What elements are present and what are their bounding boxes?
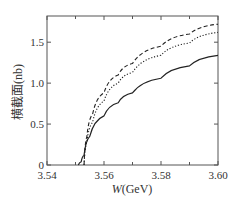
x-tick-label: 3.58 — [151, 169, 171, 181]
x-axis-label: W(GeV) — [112, 182, 153, 196]
y-tick-label: 1.5 — [30, 36, 44, 48]
y-tick-label: 0.5 — [30, 118, 44, 130]
y-tick-label: 0 — [39, 159, 45, 171]
x-tick-label: 3.60 — [208, 169, 228, 181]
cross-section-chart: 3.543.563.583.6000.51.01.5 横截面(nb) W(GeV… — [0, 0, 237, 207]
y-axis-label: 横截面(nb) — [11, 64, 25, 120]
series-dashed — [84, 24, 218, 165]
y-tick-label: 1.0 — [30, 77, 44, 89]
x-tick-label: 3.56 — [94, 169, 114, 181]
series-solid — [78, 55, 218, 165]
series-dotted — [84, 32, 218, 165]
plot-frame — [47, 16, 218, 165]
